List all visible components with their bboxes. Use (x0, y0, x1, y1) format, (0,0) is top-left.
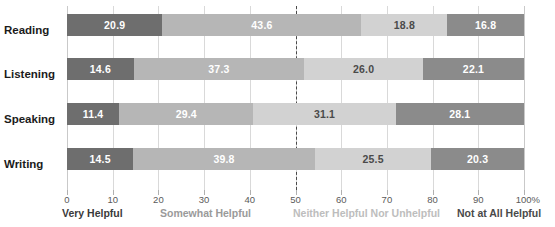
bar-value-label: 29.4 (176, 109, 197, 120)
chart-legend: Very HelpfulSomewhat HelpfulNeither Help… (0, 208, 555, 224)
bar-row: 14.637.326.022.1 (67, 58, 524, 80)
axis-tick-label: 20 (153, 195, 164, 205)
bar-value-label: 18.8 (394, 20, 415, 31)
bar-segment: 31.1 (253, 103, 395, 125)
bar-segment: 22.1 (423, 58, 524, 80)
legend-item: Very Helpful (62, 208, 123, 219)
x-axis: 0102030405060708090100% (67, 190, 524, 204)
axis-tick-label: 30 (199, 195, 210, 205)
bar-segment: 20.9 (67, 14, 162, 36)
category-label-listening: Listening (4, 69, 62, 81)
bar-value-label: 20.9 (104, 20, 125, 31)
category-label-reading: Reading (4, 25, 62, 37)
bar-value-label: 11.4 (83, 109, 104, 120)
plot-area: 20.943.618.816.814.637.326.022.111.429.4… (67, 6, 524, 190)
axis-tick-label: 70 (382, 195, 393, 205)
bar-value-label: 14.6 (90, 64, 111, 75)
legend-item: Not at All Helpful (457, 208, 541, 219)
axis-tick-label: 90 (473, 195, 484, 205)
bar-segment: 18.8 (361, 14, 447, 36)
axis-tick-label: 80 (427, 195, 438, 205)
axis-tick-label: 50 (290, 195, 301, 205)
bar-value-label: 31.1 (314, 109, 335, 120)
bar-segment: 29.4 (119, 103, 253, 125)
axis-tick-label: 0 (64, 195, 69, 205)
stacked-bar-chart: 20.943.618.816.814.637.326.022.111.429.4… (0, 0, 555, 227)
bar-segment: 16.8 (447, 14, 524, 36)
axis-tick-label: 10 (107, 195, 118, 205)
bar-segment: 25.5 (315, 148, 431, 170)
bar-value-label: 16.8 (475, 20, 496, 31)
axis-tick-label: 40 (245, 195, 256, 205)
legend-item: Neither Helpful Nor Unhelpful (293, 208, 440, 219)
bar-segment: 26.0 (304, 58, 423, 80)
bar-segment: 11.4 (67, 103, 119, 125)
gridline (524, 6, 525, 190)
bar-segment: 20.3 (431, 148, 524, 170)
bar-value-label: 14.5 (89, 154, 110, 165)
bar-segment: 28.1 (396, 103, 524, 125)
axis-tick-label: 100% (516, 195, 540, 205)
category-label-writing: Writing (4, 159, 62, 171)
bar-value-label: 37.3 (208, 64, 229, 75)
bar-value-label: 22.1 (463, 64, 484, 75)
bar-segment: 39.8 (133, 148, 315, 170)
bar-value-label: 25.5 (362, 154, 383, 165)
bar-value-label: 28.1 (449, 109, 470, 120)
category-label-speaking: Speaking (4, 114, 62, 126)
bar-segment: 43.6 (162, 14, 361, 36)
bar-row: 14.539.825.520.3 (67, 148, 524, 170)
bar-row: 20.943.618.816.8 (67, 14, 524, 36)
axis-tick-label: 60 (336, 195, 347, 205)
bar-value-label: 39.8 (213, 154, 234, 165)
bar-value-label: 20.3 (467, 154, 488, 165)
bar-segment: 14.6 (67, 58, 134, 80)
bar-segment: 14.5 (67, 148, 133, 170)
bar-segment: 37.3 (134, 58, 304, 80)
bar-row: 11.429.431.128.1 (67, 103, 524, 125)
bar-value-label: 26.0 (353, 64, 374, 75)
legend-item: Somewhat Helpful (160, 208, 251, 219)
bar-value-label: 43.6 (251, 20, 272, 31)
